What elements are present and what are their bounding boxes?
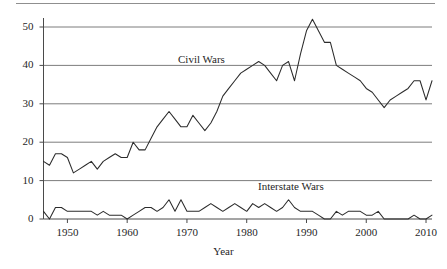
y-tick-label-40: 40 [12,58,34,70]
x-tick-label-1970: 1970 [167,226,207,238]
y-tick-label-0: 0 [12,212,34,224]
axes-group [44,18,433,219]
x-tick-label-1990: 1990 [286,226,326,238]
y-tick-label-30: 30 [12,97,34,109]
tick-marks-group [40,27,427,223]
y-tick-label-20: 20 [12,135,34,147]
x-axis-title: Year [0,245,447,257]
x-tick-label-1950: 1950 [47,226,87,238]
y-tick-label-10: 10 [12,174,34,186]
x-tick-label-2010: 2010 [406,226,446,238]
series-line-civil-wars [44,19,433,173]
gridlines-group [44,27,433,181]
series-line-interstate-wars [44,200,433,219]
chart-figure: 01020304050 1950196019701980199020002010… [0,0,447,269]
x-tick-label-2000: 2000 [346,226,386,238]
series-paths-group [44,19,433,219]
series-label-interstate-wars: Interstate Wars [258,180,324,192]
y-tick-label-50: 50 [12,20,34,32]
x-tick-label-1980: 1980 [227,226,267,238]
series-label-civil-wars: Civil Wars [178,53,225,65]
x-tick-label-1960: 1960 [107,226,147,238]
